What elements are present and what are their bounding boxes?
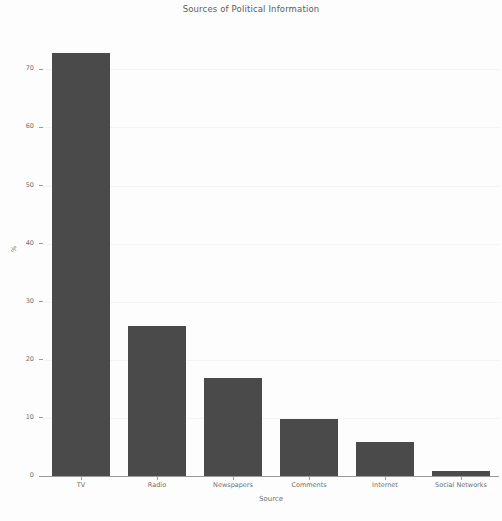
y-tick-mark [39, 185, 43, 186]
x-axis-line [43, 476, 499, 477]
gridline [43, 302, 499, 303]
y-tick-label: 40 [0, 239, 34, 248]
y-tick-label: 60 [0, 122, 34, 131]
x-tick-label: Internet [372, 481, 398, 490]
x-tick-label: Radio [148, 481, 166, 490]
gridline [43, 244, 499, 245]
y-tick-mark [39, 69, 43, 70]
y-tick-mark [39, 417, 43, 418]
y-tick-mark [39, 359, 43, 360]
chart-title: Sources of Political Information [0, 4, 502, 14]
y-tick-label: 10 [0, 413, 34, 422]
bar [128, 326, 186, 477]
gridline [43, 418, 499, 419]
y-axis-label: % [10, 229, 18, 269]
bar [356, 442, 414, 477]
gridline [43, 69, 499, 70]
x-tick-mark [461, 477, 462, 480]
x-tick-mark [309, 477, 310, 480]
x-tick-label: Comments [291, 481, 326, 490]
gridline [43, 127, 499, 128]
y-tick-label: 20 [0, 355, 34, 364]
x-tick-label: Newspapers [213, 481, 253, 490]
y-tick-label: 70 [0, 64, 34, 73]
y-tick-mark [39, 243, 43, 244]
x-tick-mark [157, 477, 158, 480]
y-tick-label: 50 [0, 181, 34, 190]
chart-figure: Sources of Political Information % Sourc… [0, 0, 502, 521]
y-tick-mark [39, 476, 43, 477]
x-tick-mark [385, 477, 386, 480]
plot-area [43, 26, 499, 477]
bar [204, 378, 262, 477]
x-tick-label: TV [77, 481, 85, 490]
y-tick-label: 0 [0, 471, 34, 480]
x-tick-label: Social Networks [435, 481, 487, 490]
y-tick-label: 30 [0, 297, 34, 306]
gridline [43, 186, 499, 187]
y-axis-line [43, 26, 44, 477]
y-tick-mark [39, 127, 43, 128]
bar [280, 419, 338, 477]
bar [52, 53, 110, 477]
y-tick-mark [39, 301, 43, 302]
gridline [43, 360, 499, 361]
x-tick-mark [233, 477, 234, 480]
x-tick-mark [81, 477, 82, 480]
x-axis-label: Source [43, 495, 499, 503]
